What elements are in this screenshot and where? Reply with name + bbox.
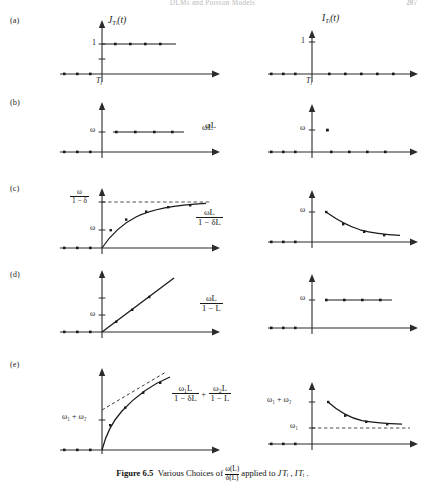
plot-d-right: ω <box>268 270 418 340</box>
y-tick-c-left-top: ω 1 − δ <box>70 188 89 205</box>
figure-caption: Figure 6.5 Various Choices of ω(L) δ(L) … <box>0 466 425 482</box>
y-tick-d-left: ω <box>90 309 95 318</box>
expression-b-omegaL: ωL <box>205 120 216 130</box>
figure-caption-targets: J Tᵢ , I Tᵢ . <box>278 468 309 478</box>
y-tick-d-right: ω <box>300 293 305 302</box>
plot-a-left: JTi(t) 1 Ti <box>60 18 220 86</box>
figure-caption-label: Figure 6.5 <box>116 468 153 478</box>
y-tick-c-right: ω <box>300 205 305 214</box>
y-tick-b-left: ω <box>90 125 95 134</box>
figure-caption-text-after: applied to <box>241 468 275 478</box>
plot-b-left: ω <box>60 100 220 162</box>
plot-e-left: ω₁ + ω₂ <box>60 358 220 458</box>
x-tick-a-left: Ti <box>96 76 102 86</box>
figure-caption-fraction: ω(L) δ(L) <box>225 466 239 482</box>
plot-c-left: ω 1 − δ ω <box>60 186 220 258</box>
plot-d-left: ω <box>60 268 220 342</box>
y-tick-b-right: ω <box>300 123 305 132</box>
row-label-b: (b) <box>10 98 20 107</box>
row-label-d: (d) <box>10 270 20 279</box>
curve-label-a-right: ITi(t) <box>322 12 339 24</box>
running-header: DLMs and Poisson Models <box>0 0 425 7</box>
figure-page: DLMs and Poisson Models 207 (a) <box>0 0 425 489</box>
curve-label-a-left: JTi(t) <box>108 14 126 26</box>
row-label-a: (a) <box>10 16 19 25</box>
y-tick-e-right-top: ω₁ + ω₂ <box>267 395 292 404</box>
row-label-c: (c) <box>10 184 19 193</box>
y-tick-e-right-bottom: ω₁ <box>290 421 298 430</box>
row-label-e: (e) <box>10 360 19 369</box>
plot-b-right: ω <box>268 100 418 162</box>
y-tick-e-left: ω₁ + ω₂ <box>62 412 87 421</box>
x-tick-a-right: Ti <box>306 76 312 86</box>
page-folio: 207 <box>406 0 417 7</box>
y-tick-c-left-bottom: ω <box>90 223 95 232</box>
plot-a-right: ITi(t) 1 Ti <box>268 18 418 86</box>
plot-c-right: ω <box>268 186 418 258</box>
y-tick-a-left: 1 <box>92 38 96 47</box>
figure-caption-text-before: Various Choices of <box>158 468 223 478</box>
y-tick-a-right: 1 <box>301 36 305 45</box>
plot-e-right: ω₁ + ω₂ ω₁ <box>268 378 418 456</box>
